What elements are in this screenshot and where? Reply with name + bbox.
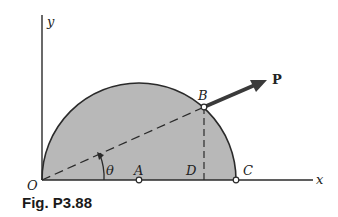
angle-theta-label: θ <box>106 163 114 178</box>
point-C-marker <box>233 177 239 183</box>
force-P-label: P <box>272 72 282 87</box>
point-C-label: C <box>243 163 253 178</box>
point-O-label: O <box>27 178 38 193</box>
x-axis-label: x <box>316 172 324 187</box>
point-A-marker <box>136 177 142 183</box>
figure-caption: Fig. P3.88 <box>22 194 92 211</box>
y-axis-label: y <box>46 14 55 29</box>
point-B-marker <box>201 104 207 110</box>
point-D-label: D <box>185 163 197 178</box>
force-arrow-shaft <box>204 85 255 107</box>
point-B-label: B <box>197 88 208 103</box>
figure-diagram: y x O A B C D θ P Fig. P3.88 <box>0 0 338 217</box>
point-A-label: A <box>133 163 143 178</box>
